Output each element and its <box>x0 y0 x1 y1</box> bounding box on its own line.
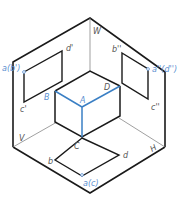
side-view-point-a <box>147 68 150 71</box>
h-axis <box>119 118 165 147</box>
label-front-a-b: a(b') <box>2 64 20 73</box>
label-side-b: b'' <box>112 45 121 54</box>
label-front-d: d' <box>66 44 73 53</box>
side-view-shape <box>122 53 148 99</box>
label-top-a-c: a(c) <box>83 179 99 188</box>
frame-top-left-edge <box>13 18 165 147</box>
outer-frame <box>13 18 165 193</box>
label-front-c: c' <box>20 105 27 114</box>
edge-AB <box>55 91 82 107</box>
label-top-d: d <box>123 151 129 160</box>
cuboid-back-top-edges <box>55 71 120 91</box>
label-side-c: c'' <box>151 103 160 112</box>
top-view-shape <box>55 138 119 176</box>
front-view-point-a <box>23 71 26 74</box>
front-view-shape <box>24 51 62 102</box>
cuboid-outer-edges <box>55 86 120 137</box>
projection-axes <box>13 18 165 147</box>
label-side-a-d: a''(d'') <box>152 65 177 74</box>
edge-AD <box>82 86 120 107</box>
projection-diagram: W V H a(b') d' c' b'' a''(d'') c'' A B C… <box>0 0 193 206</box>
top-view-point-a <box>81 174 84 177</box>
label-w-plane: W <box>93 27 102 36</box>
label-top-b: b <box>48 157 53 166</box>
label-cuboid-C: C <box>74 142 80 151</box>
label-cuboid-D: D <box>104 83 110 92</box>
label-cuboid-A: A <box>79 96 85 105</box>
label-cuboid-B: B <box>44 93 50 102</box>
label-v-plane: V <box>19 134 25 143</box>
cuboid <box>55 71 120 137</box>
